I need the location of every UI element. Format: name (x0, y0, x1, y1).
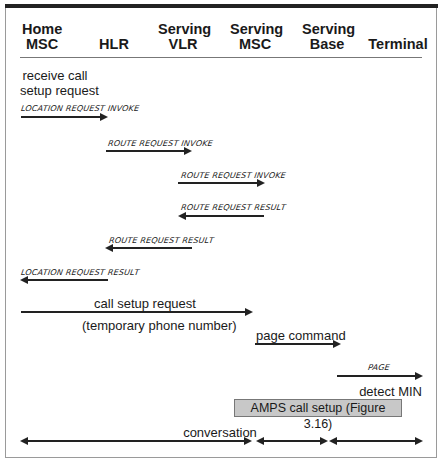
column-serving-vlr: Serving VLR (158, 22, 208, 52)
header-line2: VLR (158, 37, 208, 52)
msg-location-request-invoke-label: LOCATION REQUEST INVOKE (20, 104, 140, 113)
header-line2: MSC (230, 37, 280, 52)
msg-route-request-invoke-arrow (106, 150, 190, 152)
msg-location-request-result-label: LOCATION REQUEST RESULT (20, 268, 140, 277)
header-line2: Base (302, 37, 352, 52)
note-receive-call: receive call setup request (20, 68, 90, 98)
msg-route-request-invoke-label: ROUTE REQUEST INVOKE (107, 139, 213, 148)
msg-route-request-result-2-label: ROUTE REQUEST RESULT (108, 236, 214, 245)
header-line1: Serving (230, 22, 280, 37)
msg-call-setup-request-label: call setup request (90, 296, 200, 311)
header-line1: Serving (302, 22, 352, 37)
header-divider (20, 57, 422, 58)
amps-call-setup-box: AMPS call setup (Figure 3.16) (234, 399, 402, 417)
msg-route-request-invoke-2-label: ROUTE REQUEST INVOKE (180, 171, 286, 180)
msg-page-arrow (337, 375, 421, 377)
msg-route-request-result-2-arrow (107, 247, 192, 249)
note-line: setup request (20, 83, 90, 98)
column-serving-msc: Serving MSC (230, 22, 280, 52)
msg-route-request-invoke-2-arrow (178, 182, 263, 184)
msg-page-command-arrow (255, 343, 339, 345)
header-line2: MSC (22, 37, 62, 52)
header-line1: Serving (158, 22, 208, 37)
msg-call-setup-request-arrow (21, 311, 251, 313)
msg-call-setup-request-sublabel: (temporary phone number) (82, 318, 232, 333)
msg-location-request-result-arrow (22, 279, 108, 281)
column-serving-base: Serving Base (302, 22, 352, 52)
msg-route-request-result-label: ROUTE REQUEST RESULT (180, 203, 286, 212)
header-line1: Home (22, 22, 62, 37)
conversation-arrow-1 (22, 440, 250, 442)
conversation-arrow-3 (331, 440, 421, 442)
conversation-arrow-2 (258, 440, 326, 442)
column-hlr: HLR (94, 37, 134, 52)
column-terminal: Terminal (368, 37, 428, 52)
msg-page-command-label: page command (256, 328, 336, 343)
msg-page-label: PAGE (367, 363, 390, 372)
msg-location-request-invoke-arrow (21, 116, 106, 118)
note-line: receive call (20, 68, 90, 83)
header-line2: Terminal (368, 37, 428, 52)
column-home-msc: Home MSC (22, 22, 62, 52)
note-detect-min: detect MIN (340, 384, 422, 399)
header-line2: HLR (94, 37, 134, 52)
msg-route-request-result-arrow (180, 215, 264, 217)
